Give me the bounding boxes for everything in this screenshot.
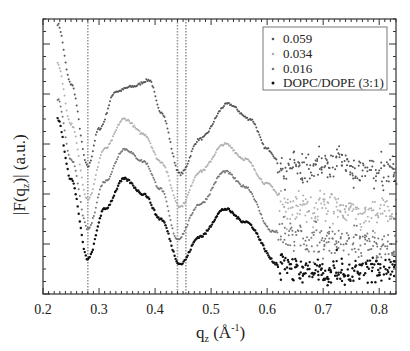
legend-label-0034: 0.034: [283, 46, 313, 61]
legend-marker-0016: [272, 68, 275, 71]
legend-marker-0059: [272, 38, 275, 41]
legend-marker-0034: [272, 53, 275, 56]
legend-marker-dopc-dope: [272, 82, 275, 85]
x-tick-label: 0.6: [258, 302, 276, 317]
x-tick-label: 0.3: [90, 302, 108, 317]
x-tick-label: 0.5: [202, 302, 220, 317]
x-axis-label: qz (Å-1): [196, 322, 245, 344]
x-tick-labels: 0.20.30.40.50.60.70.8: [34, 302, 388, 317]
x-tick-label: 0.2: [34, 302, 52, 317]
legend-label-dopc-dope: DOPC/DOPE (3:1): [283, 75, 384, 90]
legend: 0.059 0.034 0.016 DOPC/DOPE (3:1): [263, 27, 387, 90]
x-tick-label: 0.7: [314, 302, 332, 317]
x-tick-label: 0.4: [146, 302, 164, 317]
x-tick-label: 0.8: [370, 302, 388, 317]
form-factor-chart: 0.20.30.40.50.60.70.8 0.059 0.034 0.016 …: [0, 0, 410, 351]
series-3: [56, 117, 396, 287]
series-2: [57, 98, 398, 265]
legend-label-0016: 0.016: [283, 61, 313, 76]
vertical-dashed-lines: [88, 19, 186, 294]
y-axis-label: |F(qz)| (a.u.): [10, 134, 31, 215]
legend-label-0059: 0.059: [283, 31, 312, 46]
